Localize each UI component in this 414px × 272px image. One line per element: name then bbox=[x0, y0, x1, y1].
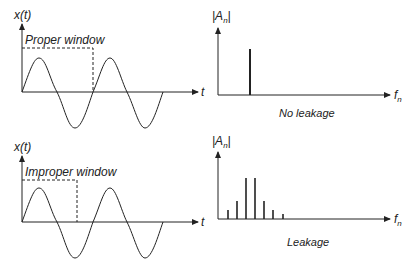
top-t-label: t bbox=[201, 85, 204, 99]
bottom-t-label: t bbox=[201, 215, 204, 229]
top-window-dashed bbox=[22, 48, 93, 92]
top-fn-label: fn bbox=[394, 88, 402, 104]
bottom-caption: Leakage bbox=[287, 236, 329, 248]
leakage-lines bbox=[228, 178, 283, 219]
top-window-label: Proper window bbox=[25, 33, 104, 47]
top-x-of-t-label: x(t) bbox=[14, 8, 31, 22]
bottom-sine-wave bbox=[22, 188, 163, 258]
top-caption: No leakage bbox=[279, 107, 335, 119]
bottom-an-label: |An| bbox=[212, 134, 231, 150]
bottom-window-label: Improper window bbox=[25, 165, 116, 179]
bottom-fn-label: fn bbox=[394, 212, 402, 228]
top-an-label: |An| bbox=[212, 9, 231, 25]
bottom-x-of-t-label: x(t) bbox=[14, 140, 31, 154]
